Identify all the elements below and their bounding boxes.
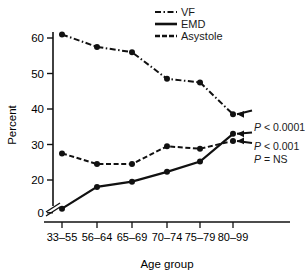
x-tick-label-2: 65–69 xyxy=(117,231,148,243)
data-point-emd-3 xyxy=(164,169,170,175)
y-tick-label-0: 0 xyxy=(38,207,44,219)
data-point-asystole-1 xyxy=(94,161,100,167)
y-tick-label-40: 40 xyxy=(31,103,44,115)
data-point-emd-5 xyxy=(230,131,236,137)
x-tick-label-3: 70–74 xyxy=(152,231,183,243)
legend-label-vf: VF xyxy=(181,6,195,18)
series-line-vf xyxy=(62,34,233,114)
data-point-vf-3 xyxy=(164,76,170,82)
data-point-emd-0 xyxy=(59,206,65,212)
y-axis-title: Percent xyxy=(6,104,18,144)
annotation-arrows xyxy=(237,110,252,144)
data-point-emd-1 xyxy=(94,184,100,190)
data-point-asystole-2 xyxy=(129,161,135,167)
x-tick-label-4: 75–79 xyxy=(185,231,216,243)
data-point-vf-1 xyxy=(94,44,100,50)
y-tick-label-30: 30 xyxy=(31,139,44,151)
legend-label-emd: EMD xyxy=(181,18,205,30)
figure-caption xyxy=(0,262,305,273)
annotation-asystole-pvalue: P = NS xyxy=(254,153,288,165)
y-tick-label-60: 60 xyxy=(31,32,44,44)
data-point-vf-2 xyxy=(129,49,135,55)
data-point-emd-4 xyxy=(197,159,203,165)
series-layer xyxy=(59,31,236,211)
arrow-asystole-head xyxy=(237,138,244,145)
legend-label-asystole: Asystole xyxy=(181,30,223,42)
y-tick-labels: 02030405060 xyxy=(31,32,44,219)
y-tick-label-20: 20 xyxy=(31,174,44,186)
y-tick-label-50: 50 xyxy=(31,68,44,80)
y-axis-ticks xyxy=(47,38,53,213)
annotation-asystole-p-symbol: P xyxy=(254,153,261,165)
annotation-vf-pvalue: P < 0.0001 xyxy=(254,121,305,133)
chart-canvas: 02030405060 33–5556–6465–6970–7475–7980–… xyxy=(0,0,305,273)
annotation-vf-p-symbol: P xyxy=(254,121,261,133)
arrow-emd-head xyxy=(237,130,244,137)
data-point-vf-0 xyxy=(59,31,65,37)
data-point-asystole-5 xyxy=(230,138,236,144)
data-point-emd-2 xyxy=(129,179,135,185)
annotation-emd-p-rest: < 0.001 xyxy=(261,140,299,152)
annotation-emd-p-symbol: P xyxy=(254,140,261,152)
x-tick-labels: 33–5556–6465–6970–7475–7980–99 xyxy=(47,231,249,243)
x-tick-label-0: 33–55 xyxy=(47,231,78,243)
x-axis-ticks xyxy=(62,222,233,228)
series-line-asystole xyxy=(62,141,233,164)
series-line-emd xyxy=(62,134,233,209)
legend-swatches xyxy=(155,12,177,36)
annotation-vf-p-rest: < 0.0001 xyxy=(261,121,305,133)
annotation-emd-pvalue: P < 0.001 xyxy=(254,140,299,152)
data-point-vf-4 xyxy=(197,79,203,85)
data-point-asystole-3 xyxy=(164,143,170,149)
data-point-vf-5 xyxy=(230,111,236,117)
arrow-vf-head xyxy=(237,111,244,118)
annotation-asystole-p-rest: = NS xyxy=(261,153,288,165)
x-tick-label-1: 56–64 xyxy=(82,231,113,243)
figure-container: 02030405060 33–5556–6465–6970–7475–7980–… xyxy=(0,0,305,273)
data-point-asystole-4 xyxy=(197,146,203,152)
data-point-asystole-0 xyxy=(59,150,65,156)
x-tick-label-5: 80–99 xyxy=(218,231,249,243)
